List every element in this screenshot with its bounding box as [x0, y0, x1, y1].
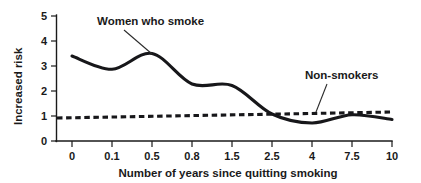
- y-axis-title: Increased risk: [12, 47, 24, 125]
- x-tick-label-5: 2.5: [264, 150, 279, 162]
- y-tick-label-2: 2: [41, 85, 47, 97]
- y-tick-group: 5 4 3 2 1 0: [41, 10, 56, 147]
- x-tick-label-1: 0.1: [104, 150, 119, 162]
- risk-line-chart: Increased risk 5 4 3 2 1 0 0 0.1: [0, 0, 421, 183]
- chart-container: Increased risk 5 4 3 2 1 0 0 0.1: [0, 0, 421, 183]
- x-tick-label-2: 0.5: [144, 150, 159, 162]
- y-tick-label-0: 0: [41, 135, 47, 147]
- annotation-leader-women-who-smoke: [124, 30, 152, 54]
- x-axis-title: Number of years since quitting smoking: [118, 167, 337, 179]
- x-tick-label-7: 7.5: [344, 150, 359, 162]
- annotation-leader-nonsmokers: [316, 84, 327, 112]
- x-tick-label-3: 0.8: [184, 150, 199, 162]
- x-tick-label-0: 0: [69, 150, 75, 162]
- x-tick-label-4: 1.5: [224, 150, 239, 162]
- annotation-label-nonsmokers: Non-smokers: [305, 69, 379, 81]
- y-tick-label-3: 3: [41, 60, 47, 72]
- y-tick-label-4: 4: [41, 35, 48, 47]
- y-tick-label-5: 5: [41, 10, 47, 22]
- x-tick-group: 0 0.1 0.5 0.8 1.5 2.5 4 7.5 10: [69, 141, 398, 162]
- x-tick-label-8: 10: [386, 150, 398, 162]
- x-tick-label-6: 4: [309, 150, 316, 162]
- y-tick-label-1: 1: [41, 110, 47, 122]
- annotation-label-women-who-smoke: Women who smoke: [97, 15, 204, 27]
